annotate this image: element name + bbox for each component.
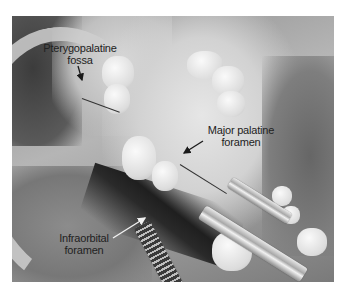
label-line: Pterygopalatine bbox=[40, 42, 120, 54]
label-line: foramen bbox=[200, 136, 282, 148]
tooth bbox=[122, 136, 156, 180]
label-line: fossa bbox=[40, 54, 120, 66]
tooth bbox=[297, 228, 327, 256]
tooth bbox=[104, 84, 130, 114]
label-line: Infraorbital bbox=[54, 232, 114, 244]
dark-right-region bbox=[262, 56, 334, 256]
label-pterygopalatine-fossa: Pterygopalatine fossa bbox=[40, 42, 120, 66]
label-line: foramen bbox=[54, 244, 114, 256]
tooth bbox=[152, 161, 178, 191]
label-line: Major palatine bbox=[200, 124, 282, 136]
tooth bbox=[217, 91, 245, 117]
label-major-palatine-foramen: Major palatine foramen bbox=[200, 124, 282, 148]
label-infraorbital-foramen: Infraorbital foramen bbox=[54, 232, 114, 256]
